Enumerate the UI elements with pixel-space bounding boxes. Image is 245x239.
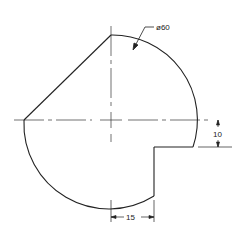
centerlines (14, 26, 212, 142)
notch-height-label: 10 (213, 130, 222, 139)
technical-drawing: ø60 10 15 (0, 0, 245, 239)
notch-width-label: 15 (126, 213, 135, 222)
diameter-label: ø60 (156, 23, 170, 32)
